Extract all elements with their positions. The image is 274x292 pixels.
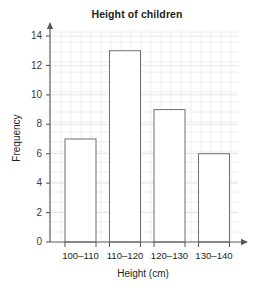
- y-tick-label: 12: [31, 60, 43, 71]
- x-tick-label: 130–140: [195, 250, 232, 261]
- y-tick-label: 8: [36, 118, 42, 129]
- y-tick-label: 0: [36, 236, 42, 247]
- chart-plot-area: 02468101214 100–110110–120120–130130–140…: [0, 0, 274, 292]
- y-axis-arrow-icon: [47, 22, 53, 29]
- y-axis-tick-labels: 02468101214: [31, 30, 43, 247]
- bars-group: [65, 51, 230, 242]
- x-tick-label: 120–130: [151, 250, 188, 261]
- bar: [110, 51, 141, 242]
- bar: [65, 139, 96, 242]
- bar: [199, 154, 230, 242]
- x-axis-tick-labels: 100–110110–120120–130130–140: [62, 250, 233, 261]
- y-tick-label: 14: [31, 30, 43, 41]
- y-tick-label: 10: [31, 89, 43, 100]
- x-axis-ticks: [65, 242, 230, 247]
- x-axis-arrow-icon: [241, 239, 248, 245]
- x-axis-title: Height (cm): [117, 268, 169, 279]
- y-tick-label: 4: [36, 177, 42, 188]
- x-tick-label: 100–110: [62, 250, 99, 261]
- bar: [154, 110, 185, 242]
- y-tick-label: 6: [36, 148, 42, 159]
- histogram-chart: Height of children 02468101214 100–11011…: [0, 0, 274, 292]
- y-axis-title: Frequency: [11, 114, 22, 161]
- x-tick-label: 110–120: [107, 250, 144, 261]
- y-tick-label: 2: [36, 207, 42, 218]
